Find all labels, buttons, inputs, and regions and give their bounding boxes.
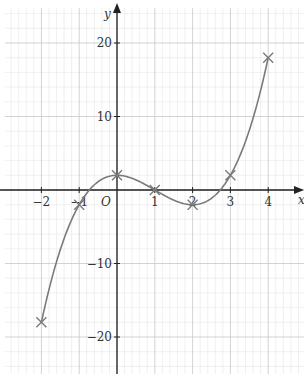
cubic-graph: −2−112342010−10−20 x y O — [0, 0, 304, 374]
x-tick-label: 3 — [227, 195, 235, 209]
y-tick-label: 10 — [97, 110, 112, 124]
x-tick-label: −2 — [33, 195, 51, 209]
x-tick-label: 4 — [264, 195, 272, 209]
x-axis-label: x — [298, 193, 304, 207]
x-tick-label: −1 — [70, 195, 88, 209]
y-axis-label: y — [103, 7, 111, 21]
y-tick-label: −10 — [87, 257, 112, 271]
y-tick-label: −20 — [87, 330, 112, 344]
y-tick-label: 20 — [97, 36, 112, 50]
origin-label: O — [101, 195, 111, 209]
x-tick-label: 1 — [151, 195, 159, 209]
